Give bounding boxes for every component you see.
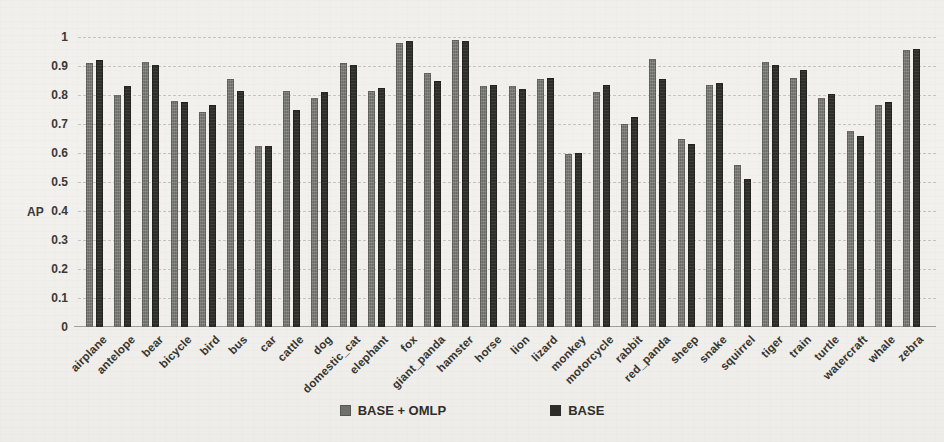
bar-base-elephant <box>378 88 385 327</box>
gridline-1 <box>78 37 936 38</box>
bar-base-omlp-lion <box>509 86 516 327</box>
bar-base-train <box>800 70 807 327</box>
x-tick-label-sheep: sheep <box>668 333 701 366</box>
y-tick-label-0.3: 0.3 <box>26 234 68 246</box>
bar-base-fox <box>406 41 413 327</box>
bar-base-snake <box>716 83 723 327</box>
legend-item-base-omlp: BASE + OMLP <box>340 403 447 418</box>
bar-base-airplane <box>96 60 103 327</box>
gridline-0.7 <box>78 124 936 125</box>
legend-swatch-base-icon <box>550 405 561 416</box>
bar-base-omlp-bicycle <box>171 101 178 327</box>
bar-base-bicycle <box>181 102 188 327</box>
y-tick-label-1: 1 <box>26 31 68 43</box>
bar-base-domestic_cat <box>350 65 357 327</box>
x-tick-label-bus: bus <box>226 333 249 356</box>
gridline-0.4 <box>78 211 936 212</box>
x-tick-label-train: train <box>786 333 813 360</box>
y-tick-label-0.5: 0.5 <box>26 176 68 188</box>
x-tick-label-zebra: zebra <box>896 333 926 363</box>
x-tick-label-cattle: cattle <box>276 333 307 364</box>
chart-figure: AP BASE + OMLP BASE 10.90.80.70.60.50.40… <box>0 0 944 442</box>
bar-base-dog <box>321 92 328 327</box>
legend-label-base: BASE <box>568 403 604 418</box>
legend-item-base: BASE <box>550 403 604 418</box>
bar-base-sheep <box>688 144 695 327</box>
bar-base-omlp-snake <box>706 85 713 327</box>
gridline-0.5 <box>78 182 936 183</box>
y-tick-label-0: 0 <box>26 321 68 333</box>
bar-base-omlp-antelope <box>114 95 121 327</box>
x-tick-label-lion: lion <box>508 333 532 357</box>
bar-base-bus <box>237 91 244 327</box>
bar-base-horse <box>490 85 497 327</box>
gridline-0.8 <box>78 95 936 96</box>
legend-swatch-base-omlp-icon <box>340 405 351 416</box>
bar-base-omlp-bus <box>227 79 234 327</box>
bar-base-omlp-train <box>790 78 797 327</box>
bar-base-car <box>265 146 272 327</box>
x-tick-label-bird: bird <box>197 333 221 357</box>
bar-base-rabbit <box>631 117 638 327</box>
bar-base-lion <box>519 89 526 327</box>
x-tick-label-horse: horse <box>472 333 503 364</box>
y-tick-label-0.9: 0.9 <box>26 60 68 72</box>
bar-base-omlp-bird <box>199 112 206 327</box>
bar-base-omlp-fox <box>396 43 403 327</box>
bar-base-red_panda <box>659 79 666 327</box>
x-tick-label-car: car <box>257 333 278 354</box>
bar-base-omlp-watercraft <box>847 131 854 327</box>
x-tick-label-dog: dog <box>311 333 335 357</box>
y-tick-label-0.8: 0.8 <box>26 89 68 101</box>
bar-base-squirrel <box>744 179 751 327</box>
bar-base-omlp-red_panda <box>649 59 656 327</box>
bar-base-omlp-rabbit <box>621 124 628 327</box>
y-tick-label-0.7: 0.7 <box>26 118 68 130</box>
bar-base-zebra <box>913 49 920 327</box>
bar-base-omlp-cattle <box>283 91 290 327</box>
bar-base-omlp-lizard <box>537 79 544 327</box>
bar-base-omlp-whale <box>875 105 882 327</box>
bar-base-omlp-zebra <box>903 50 910 327</box>
bar-base-turtle <box>828 94 835 327</box>
bar-base-hamster <box>462 41 469 327</box>
y-tick-label-0.1: 0.1 <box>26 292 68 304</box>
bar-base-giant_panda <box>434 81 441 328</box>
bar-base-omlp-giant_panda <box>424 73 431 327</box>
bar-base-watercraft <box>857 136 864 327</box>
y-tick-label-0.4: 0.4 <box>26 205 68 217</box>
legend-label-base-omlp: BASE + OMLP <box>358 403 447 418</box>
bar-base-bear <box>152 65 159 327</box>
bar-base-omlp-dog <box>311 98 318 327</box>
gridline-0.2 <box>78 269 936 270</box>
bar-base-cattle <box>293 110 300 328</box>
bar-base-whale <box>885 102 892 327</box>
y-tick-label-0.2: 0.2 <box>26 263 68 275</box>
bar-base-omlp-squirrel <box>734 165 741 327</box>
bar-base-tiger <box>772 65 779 327</box>
gridline-0.9 <box>78 66 936 67</box>
bar-base-motorcycle <box>603 85 610 327</box>
bar-base-antelope <box>124 86 131 327</box>
bar-base-omlp-domestic_cat <box>340 63 347 327</box>
bar-base-omlp-turtle <box>818 98 825 327</box>
bar-base-omlp-airplane <box>86 63 93 327</box>
bar-base-monkey <box>575 153 582 327</box>
bar-base-omlp-elephant <box>368 91 375 327</box>
gridline-0.3 <box>78 240 936 241</box>
bar-base-omlp-horse <box>480 86 487 327</box>
bar-base-omlp-car <box>255 146 262 327</box>
bar-base-lizard <box>547 78 554 327</box>
x-tick-label-tiger: tiger <box>758 333 785 360</box>
x-tick-label-fox: fox <box>398 333 419 354</box>
bar-base-omlp-motorcycle <box>593 92 600 327</box>
bar-base-bird <box>209 105 216 327</box>
x-tick-label-whale: whale <box>866 333 898 365</box>
y-tick-label-0.6: 0.6 <box>26 147 68 159</box>
gridline-0.6 <box>78 153 936 154</box>
gridline-0.1 <box>78 298 936 299</box>
bar-base-omlp-sheep <box>678 139 685 328</box>
bar-base-omlp-hamster <box>452 40 459 327</box>
legend: BASE + OMLP BASE <box>0 403 944 418</box>
bar-base-omlp-monkey <box>565 154 572 327</box>
